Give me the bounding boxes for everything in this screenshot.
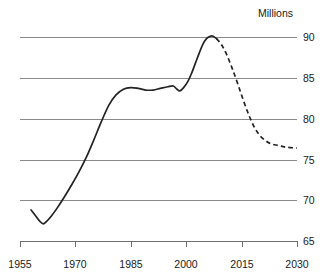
x-tick-label-2030: 2030 bbox=[285, 258, 309, 270]
x-tick-label-1955: 1955 bbox=[8, 258, 32, 270]
y-tick-label-70: 70 bbox=[303, 194, 315, 206]
gridlines bbox=[20, 37, 297, 200]
x-axis bbox=[20, 241, 297, 247]
line-chart: Millions 90 85 80 75 70 65 1955 bbox=[0, 0, 324, 279]
y-tick-label-65: 65 bbox=[303, 235, 315, 247]
y-tick-label-80: 80 bbox=[303, 113, 315, 125]
chart-container: Millions 90 85 80 75 70 65 1955 bbox=[0, 0, 324, 279]
y-tick-label-85: 85 bbox=[303, 72, 315, 84]
y-tick-label-90: 90 bbox=[303, 31, 315, 43]
y-tick-label-75: 75 bbox=[303, 154, 315, 166]
x-axis-tick-labels: 1955 1970 1985 2000 2015 2030 bbox=[8, 258, 309, 270]
x-tick-label-1970: 1970 bbox=[63, 258, 87, 270]
x-tick-label-1985: 1985 bbox=[119, 258, 143, 270]
x-tick-label-2015: 2015 bbox=[230, 258, 254, 270]
y-axis-tick-labels: 90 85 80 75 70 65 bbox=[303, 31, 315, 247]
y-axis-unit-title: Millions bbox=[258, 7, 293, 19]
x-tick-label-2000: 2000 bbox=[174, 258, 198, 270]
series-line-projected bbox=[216, 39, 297, 148]
series-line-observed bbox=[31, 36, 216, 224]
